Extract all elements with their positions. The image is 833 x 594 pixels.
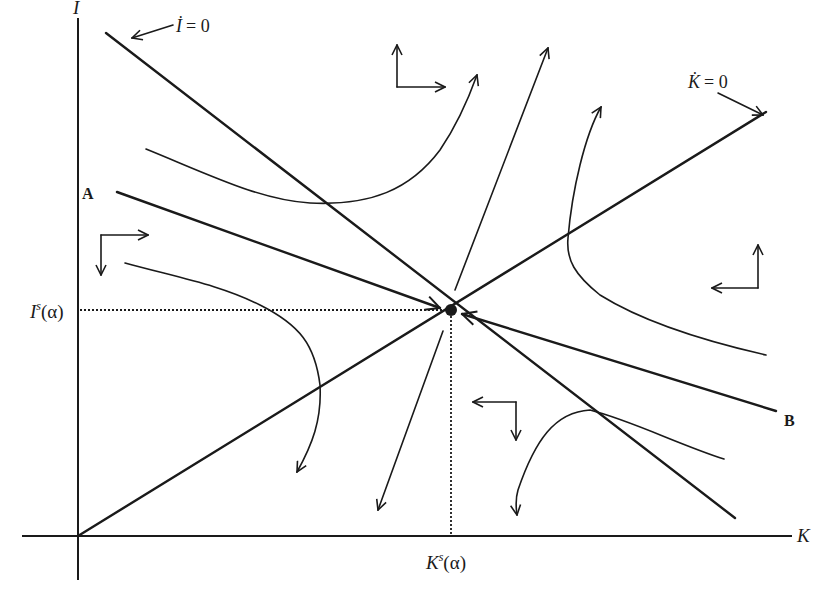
direction-left-up-icon [712,245,758,288]
saddle-label-a: A [82,185,94,202]
ks-alpha-label: Ks(α) [425,550,466,574]
k-axis-label: K [796,525,811,546]
direction-left-down-icon [473,402,516,440]
k-dot-zero-locus [78,112,766,536]
phase-diagram: I K İ= 0 K̇= 0 A B Is(α) Ks(α) [0,0,833,594]
k-dot-label-pointer [718,93,763,115]
direction-right-down-icon [101,235,148,275]
trajectory-upper-left [146,75,477,203]
saddle-path-b [462,314,776,411]
trajectory-down-steep [378,331,443,510]
i-axis-label: I [72,0,81,18]
saddle-path-a [117,192,440,308]
steady-state-point [445,304,457,316]
is-alpha-label: Is(α) [29,299,64,323]
trajectory-upper-right [568,107,766,355]
i-dot-zero-label: İ= 0 [175,16,210,36]
i-dot-label-pointer [132,25,173,38]
direction-up-right-icon [397,45,445,87]
k-dot-zero-label: K̇= 0 [687,71,728,92]
trajectory-lower-left [125,263,320,472]
saddle-label-b: B [784,412,795,429]
trajectory-lower-right [516,410,724,515]
i-dot-zero-locus [106,33,735,518]
